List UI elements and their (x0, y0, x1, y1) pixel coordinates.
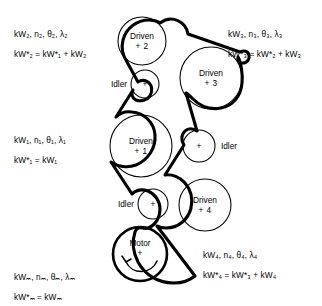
pulley-driven-2 (118, 17, 166, 65)
belt-drive-diagram: Driven + 2 + Idler Driven + 3 Driven + 1… (0, 0, 322, 306)
annotation-driven-2-line1: kW₂, n₂, θ₂, λ₂ (14, 30, 86, 39)
annotation-driven-4: kW₄, n₄, θ₄, λ₄ kW*₄ = kW*₃ + kW₄ (203, 251, 276, 290)
annotation-driven-3-line2: kW*₃ = kW*₂ + kW₃ (228, 50, 301, 59)
annotation-driven-3-line1: kW₃, n₃, θ₃, λ₃ (228, 30, 301, 39)
pulley-idler-top (131, 70, 159, 98)
pulley-idler-bottom (138, 189, 168, 219)
pulley-name-idler-bottom: Idler (118, 199, 134, 209)
annotation-driven-2-line2: kW*₂ = kW*₁ + kW₂ (14, 50, 86, 59)
pulley-name-idler-top: Idler (111, 79, 127, 89)
pulley-driven-1 (110, 115, 172, 177)
pulley-idler-right (183, 130, 215, 162)
pulley-driven-4 (179, 179, 231, 231)
annotation-driven-1: kW₁, n₁, θ₁, λ₁ kW*₁ = kW₁ (14, 136, 66, 175)
pulley-motor (113, 227, 167, 281)
annotation-motor-line2: kW*ₘ = kWₘ (14, 293, 75, 302)
annotation-driven-1-line2: kW*₁ = kW₁ (14, 156, 66, 165)
annotation-driven-3: kW₃, n₃, θ₃, λ₃ kW*₃ = kW*₂ + kW₃ (228, 30, 301, 69)
pulley-name-idler-right: Idler (221, 141, 237, 151)
annotation-driven-2: kW₂, n₂, θ₂, λ₂ kW*₂ = kW*₁ + kW₂ (14, 30, 86, 69)
annotation-driven-4-line1: kW₄, n₄, θ₄, λ₄ (203, 251, 276, 260)
annotation-motor: kWₘ, nₘ, θₘ, λₘ kW*ₘ = kWₘ (14, 273, 75, 306)
annotation-motor-line1: kWₘ, nₘ, θₘ, λₘ (14, 273, 75, 282)
annotation-driven-4-line2: kW*₄ = kW*₃ + kW₄ (203, 271, 276, 280)
annotation-driven-1-line1: kW₁, n₁, θ₁, λ₁ (14, 136, 66, 145)
